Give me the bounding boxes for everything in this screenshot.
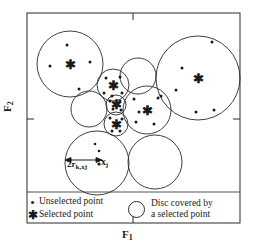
unselected-point (78, 88, 81, 91)
legend-entry-selected: ✱ Selected point (26, 209, 103, 222)
unselected-point (98, 150, 101, 153)
unselected-point (66, 44, 69, 47)
point-xj-label-subscript: j (106, 161, 108, 169)
unselected-point (181, 67, 184, 70)
legend-unselected-label: Unselected point (39, 196, 103, 207)
legend: • Unselected point ✱ Selected point Disc… (26, 196, 240, 222)
radius-annotation-subsubscript: j (85, 163, 87, 171)
legend-disc-column: Disc covered by a selected point (128, 196, 213, 222)
unselected-point (160, 95, 163, 98)
plot-frame (27, 13, 240, 223)
unselected-point (121, 92, 124, 95)
legend-disc-label-line1: Disc covered by (151, 198, 213, 208)
x-axis-label-subscript: 1 (129, 233, 133, 242)
unselected-point (138, 111, 141, 114)
x-axis-label-text: F (122, 228, 129, 240)
selected-point-asterisk: ✱ (65, 57, 76, 72)
point-xj-label: xj (101, 158, 108, 169)
legend-disc-label-line2: a selected point (151, 209, 210, 219)
y-axis-label: F2 (2, 101, 15, 112)
y-axis-label-subscript: 2 (6, 101, 15, 105)
radius-annotation-text: 2r (67, 159, 76, 169)
unselected-point (89, 61, 92, 64)
selected-point-asterisk: ✱ (111, 97, 122, 112)
legend-points-column: • Unselected point ✱ Selected point (26, 196, 103, 222)
unselected-point (103, 92, 106, 95)
radius-annotation: 2rk,xj (67, 160, 87, 171)
legend-disc-label: Disc covered by a selected point (151, 198, 213, 220)
legend-entry-unselected: • Unselected point (26, 196, 103, 209)
legend-selected-label: Selected point (39, 209, 93, 220)
selected-point-asterisk: ✱ (142, 103, 153, 118)
unselected-point (213, 109, 216, 112)
selected-point-asterisk: ✱ (108, 78, 119, 93)
unselected-point (175, 89, 178, 92)
legend-entry-disc: Disc covered by a selected point (128, 196, 213, 222)
unselected-point (211, 41, 214, 44)
circle-outline-icon (128, 201, 145, 218)
unselected-point (94, 143, 97, 146)
unselected-point (133, 98, 136, 101)
x-axis-label: F1 (122, 229, 133, 242)
unselected-point (49, 65, 52, 68)
y-axis-label-text: F (1, 105, 13, 112)
unselected-point (195, 111, 198, 114)
unselected-point (153, 123, 156, 126)
unselected-point (157, 97, 160, 100)
figure-container: ✱ ✱ ✱ ✱ ✱ ✱ F1 F2 2rk,xj xj • Unsel (0, 0, 256, 248)
selected-point-asterisk: ✱ (111, 117, 122, 132)
radius-annotation-subscript: k,x (76, 163, 85, 171)
unselected-point (135, 121, 138, 124)
unselected-point (119, 76, 122, 79)
asterisk-icon: ✱ (26, 209, 39, 222)
selected-point-asterisk: ✱ (193, 71, 204, 86)
